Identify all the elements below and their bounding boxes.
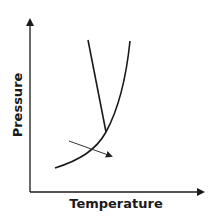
x-axis-label: Temperature (69, 196, 163, 211)
y-axis-label: Pressure (10, 73, 25, 138)
solid-liquid-line (88, 40, 106, 132)
phase-diagram (0, 0, 215, 220)
process-arrow (69, 141, 111, 156)
